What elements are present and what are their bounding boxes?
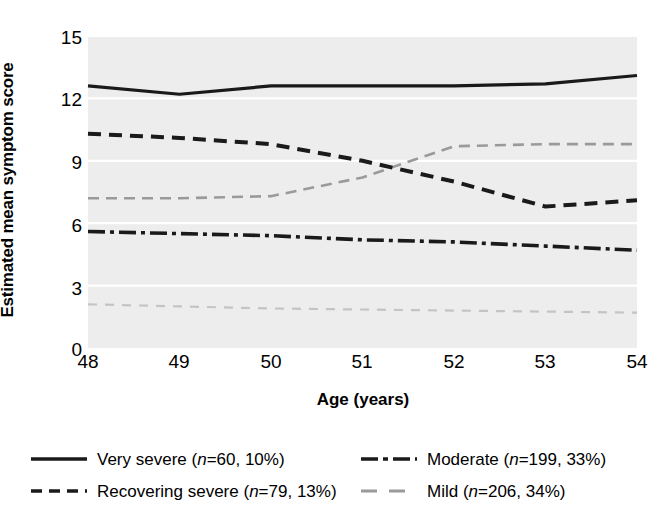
x-tick-label: 52 (431, 352, 477, 371)
legend-swatch-dashdot-icon (360, 452, 418, 466)
legend-label: Recovering severe (n=79, 13%) (97, 483, 337, 500)
y-tick-label: 9 (42, 153, 82, 172)
x-tick-label: 48 (65, 352, 111, 371)
chart-figure: Estimated mean symptom score 15 12 9 6 3… (0, 0, 664, 510)
x-axis-label: Age (years) (88, 390, 638, 410)
y-tick-label: 12 (42, 90, 82, 109)
legend-swatch-dashed-icon (30, 484, 88, 498)
plot-area (0, 0, 664, 510)
x-tick-label: 51 (339, 352, 385, 371)
legend-swatch-dashed-light-icon (360, 484, 418, 498)
legend-swatch-solid-icon (30, 452, 88, 466)
legend-item-recovering-severe: Recovering severe (n=79, 13%) (30, 476, 337, 506)
y-tick-label: 15 (42, 28, 82, 47)
y-tick-label: 3 (42, 279, 82, 298)
chart-legend: Very severe (n=60, 10%) Moderate (n=199,… (0, 440, 664, 510)
legend-label: Very severe (n=60, 10%) (97, 451, 285, 468)
x-tick-label: 54 (614, 352, 660, 371)
legend-label: Mild (n=206, 34%) (427, 483, 565, 500)
legend-item-mild: Mild (n=206, 34%) (360, 476, 565, 506)
y-tick-label: 6 (42, 216, 82, 235)
x-tick-label: 50 (248, 352, 294, 371)
x-tick-label: 49 (156, 352, 202, 371)
x-tick-label: 53 (522, 352, 568, 371)
legend-item-very-severe: Very severe (n=60, 10%) (30, 444, 285, 474)
legend-item-moderate: Moderate (n=199, 33%) (360, 444, 606, 474)
legend-label: Moderate (n=199, 33%) (427, 451, 606, 468)
